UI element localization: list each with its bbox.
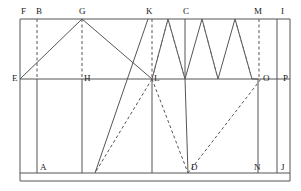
dashed-l-to-d bbox=[152, 79, 188, 173]
point-label-g: G bbox=[79, 7, 86, 16]
point-label-i: I bbox=[281, 7, 284, 16]
point-label-l: L bbox=[154, 74, 160, 83]
dashed-l-to-foot bbox=[95, 79, 152, 173]
point-label-a: A bbox=[40, 163, 47, 172]
diagram-canvas: FBGKCMIEHLOPADNJ bbox=[0, 0, 301, 191]
point-label-e: E bbox=[12, 74, 18, 83]
point-label-h: H bbox=[84, 74, 91, 83]
dashed-d-to-o bbox=[188, 79, 261, 173]
point-label-p: P bbox=[283, 74, 288, 83]
zigzag-polyline bbox=[20, 19, 252, 79]
point-label-k: K bbox=[146, 7, 153, 16]
point-label-n: N bbox=[254, 163, 261, 172]
outer-frame bbox=[20, 19, 290, 181]
point-label-f: F bbox=[21, 7, 26, 16]
point-label-d: D bbox=[191, 163, 198, 172]
point-label-o: O bbox=[263, 74, 270, 83]
point-label-b: B bbox=[36, 7, 42, 16]
point-label-j: J bbox=[281, 163, 285, 172]
segment-c-to-d bbox=[185, 79, 188, 173]
point-label-c: C bbox=[183, 7, 189, 16]
point-label-m: M bbox=[254, 7, 262, 16]
diagonal-solid-to-k bbox=[95, 19, 148, 173]
